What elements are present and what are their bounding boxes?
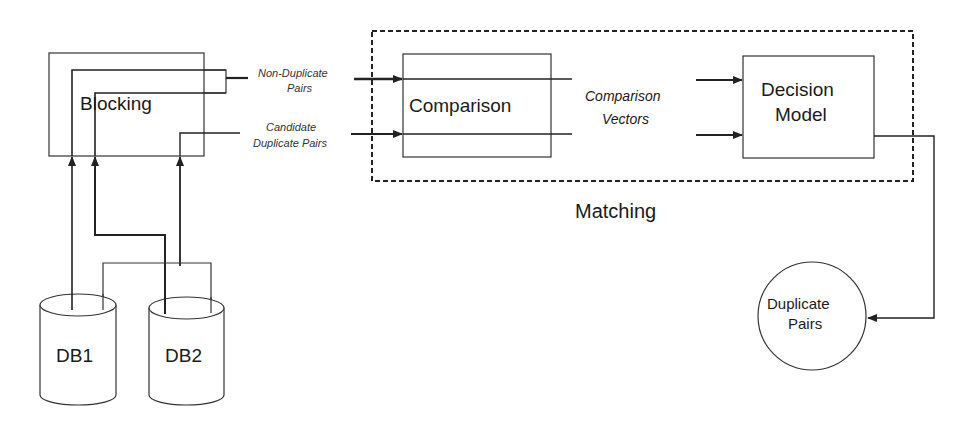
non-duplicate-label-line1: Non-Duplicate [258,67,328,80]
decision-model-label-line2: Model [775,104,827,126]
comparison-vectors-label-line1: Comparison [585,88,660,104]
decision-to-duplicates-arrow [868,136,934,318]
comparison-vectors-label-line2: Vectors [602,111,649,127]
db1-label: DB1 [56,345,93,367]
candidate-label-line2: Duplicate Pairs [253,137,327,150]
comparison-label: Comparison [409,95,511,117]
decision-model-label-line1: Decision [761,79,834,101]
non-duplicate-label-line2: Pairs [287,82,312,95]
diagram-canvas [0,0,976,430]
candidate-label-line1: Candidate [266,121,316,134]
non-duplicate-bracket [204,70,226,93]
duplicate-pairs-label-line2: Pairs [788,315,822,332]
db2-label: DB2 [165,345,202,367]
blocking-inner-line-3 [180,133,240,156]
blocking-label: Blocking [80,93,152,115]
db2-to-blocking-arrow [95,157,165,308]
matching-group-label: Matching [575,200,656,223]
duplicate-pairs-label-line1: Duplicate [767,295,830,312]
